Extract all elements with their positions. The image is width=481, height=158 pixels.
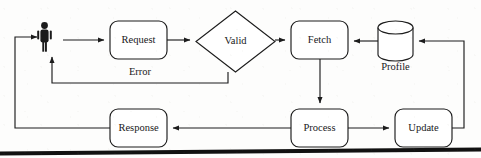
- edge-label-error: Error: [129, 66, 152, 77]
- node-process-label: Process: [303, 122, 335, 133]
- node-process[interactable]: Process: [291, 109, 348, 147]
- node-profile-database[interactable]: Profile: [378, 21, 413, 72]
- flowchart-canvas: Request Valid Fetch Profile Response Pro…: [0, 0, 481, 158]
- node-fetch-label: Fetch: [308, 34, 332, 45]
- node-response[interactable]: Response: [110, 109, 167, 147]
- node-update-label: Update: [408, 122, 439, 133]
- page-edge-band: [0, 148, 481, 156]
- node-valid[interactable]: Valid: [196, 11, 275, 72]
- node-request-label: Request: [122, 34, 156, 45]
- node-update[interactable]: Update: [395, 109, 452, 147]
- node-request[interactable]: Request: [110, 21, 167, 59]
- node-profile-caption: Profile: [381, 61, 410, 72]
- actor-person-icon: [37, 22, 52, 52]
- node-valid-label: Valid: [224, 35, 247, 46]
- flowchart-svg: Request Valid Fetch Profile Response Pro…: [0, 0, 481, 158]
- node-response-label: Response: [118, 122, 159, 133]
- node-fetch[interactable]: Fetch: [291, 21, 348, 59]
